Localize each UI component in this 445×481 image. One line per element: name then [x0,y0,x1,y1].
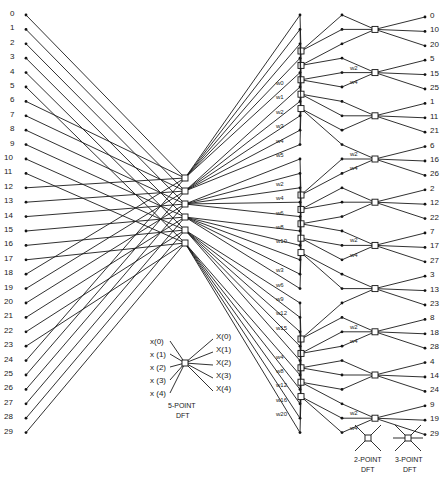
dft3-node [372,286,378,292]
dft5-output-edge [185,202,300,204]
dft3-output-edge [375,103,425,115]
dft3-output-edge [375,245,425,261]
dft3-output-edge [375,202,425,218]
dft5-output-edge [185,217,300,289]
dft2-node [298,250,304,256]
dft3-input-edge [342,231,375,245]
dft3-output-edge [375,29,425,31]
dft3-output-edge [375,73,425,89]
dft3-output-edge [375,289,425,291]
input-edge [26,230,185,418]
output-node [424,260,427,263]
input-edge [26,178,185,274]
output-node [424,30,427,33]
signal-flow-graph [0,0,445,481]
dft3-node [372,242,378,248]
dft5-node [182,240,188,246]
input-edge [26,243,185,433]
dft3-input-edge [342,73,375,87]
dft5-output-edge [185,73,300,178]
output-node [424,131,427,134]
dft2-edge [300,188,342,231]
dft5-output-edge [185,217,300,231]
dft3-output-edge [375,159,425,175]
dft5-output-edge [185,230,300,346]
output-node [424,188,427,191]
dft5-output-edge [185,145,300,191]
input-edge [26,178,185,188]
legend-2pt-node [365,435,371,441]
legend-5pt-edge [185,352,213,363]
dft3-output-edge [375,332,425,334]
output-node [424,347,427,350]
input-edge [26,191,185,375]
input-edge [26,204,185,389]
dft3-node [372,70,378,76]
dft3-output-edge [375,363,425,375]
dft3-output-edge [375,29,425,45]
dft5-output-edge [185,243,300,433]
dft3-input-edge [342,289,375,303]
input-edge [26,217,185,404]
output-node [424,44,427,47]
output-node [424,390,427,393]
dft3-input-edge [342,116,375,130]
dft3-node [372,26,378,32]
output-node [424,232,427,235]
dft3-output-edge [375,147,425,159]
dft3-input-edge [342,274,375,288]
dft3-output-edge [375,245,425,247]
dft3-input-edge [342,332,375,346]
dft2-edge [300,202,342,260]
dft5-output-edge [185,243,300,418]
dft5-output-edge [185,230,300,361]
output-node [424,275,427,278]
dft5-output-edge [185,243,300,375]
dft2-node [298,394,304,400]
input-edge [26,101,185,178]
dft5-output-edge [185,29,300,178]
dft3-output-edge [375,17,425,29]
dft3-output-edge [375,375,425,391]
dft5-node [182,227,188,233]
dft3-output-edge [375,190,425,202]
dft3-output-edge [375,319,425,331]
legend-5pt-edge [185,363,213,391]
output-node [424,73,427,76]
dft3-input-edge [342,15,375,29]
dft3-input-edge [342,404,375,418]
output-node [424,376,427,379]
dft3-node [372,199,378,205]
output-node [424,16,427,19]
output-node [424,361,427,364]
input-edge [26,178,185,361]
dft3-output-edge [375,375,425,377]
dft3-node [372,415,378,421]
dft5-node [182,175,188,181]
dft2-edge [300,217,342,260]
dft3-output-edge [375,202,425,204]
output-node [424,203,427,206]
dft3-input-edge [342,375,375,389]
dft2-edge [300,188,342,246]
dft3-node [372,372,378,378]
dft3-output-edge [375,116,425,132]
dft2-edge [300,332,342,375]
output-node [424,145,427,148]
dft3-input-edge [342,361,375,375]
dft3-input-edge [342,159,375,173]
dft5-output-edge [185,58,300,178]
dft3-input-edge [342,202,375,216]
legend-5pt-edge [185,363,213,365]
dft3-output-edge [375,289,425,305]
dft3-input-edge [342,101,375,115]
output-node [424,318,427,321]
dft3-input-edge [342,188,375,202]
output-node [424,419,427,422]
legend-5pt-edge [185,339,213,363]
dft3-input-edge [342,245,375,259]
output-node [424,404,427,407]
dft3-node [372,329,378,335]
output-node [424,304,427,307]
dft3-node [372,156,378,162]
